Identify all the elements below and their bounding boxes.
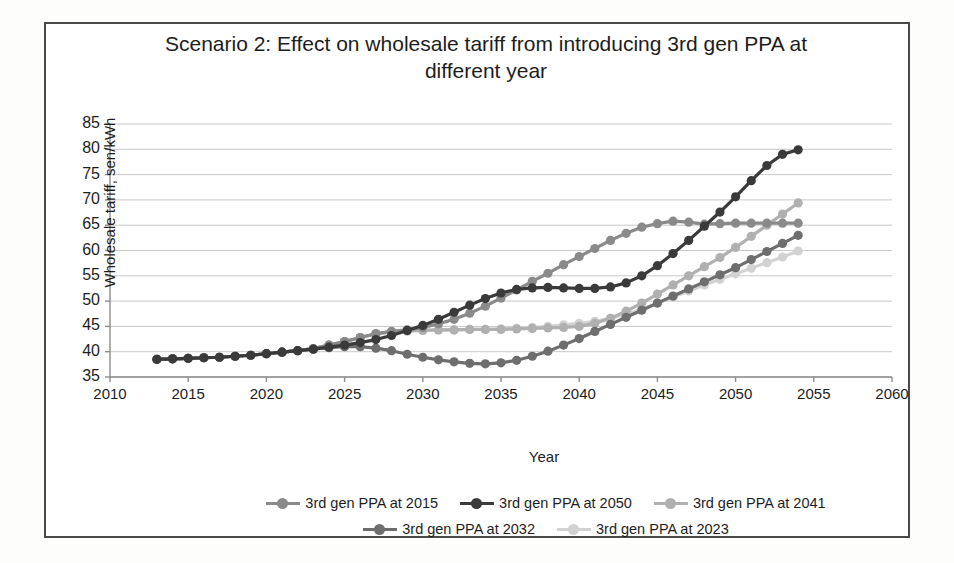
data-point (231, 352, 240, 361)
data-point (293, 346, 302, 355)
chart-frame: Scenario 2: Effect on wholesale tariff f… (44, 22, 910, 538)
data-point (215, 353, 224, 362)
data-point (747, 176, 756, 185)
data-point (324, 341, 333, 350)
x-tick-label: 2050 (706, 385, 766, 402)
x-tick-label: 2025 (315, 385, 375, 402)
data-point (637, 223, 646, 232)
data-point (559, 341, 568, 350)
data-point (543, 283, 552, 292)
data-point (731, 243, 740, 252)
series-line (157, 235, 798, 364)
data-point (590, 319, 599, 328)
x-tick-label: 2030 (393, 385, 453, 402)
data-point (559, 323, 568, 332)
data-point (403, 350, 412, 359)
data-point (434, 325, 443, 334)
data-point (449, 325, 458, 334)
data-point (496, 293, 505, 302)
chart-legend: 3rd gen PPA at 20153rd gen PPA at 20503r… (196, 490, 896, 542)
data-point (590, 327, 599, 336)
y-tick-label: 35 (66, 367, 100, 385)
data-point (778, 239, 787, 248)
data-point (668, 291, 677, 300)
data-point (762, 258, 771, 267)
data-point (575, 322, 584, 331)
x-tick-label: 2045 (627, 385, 687, 402)
data-point (434, 315, 443, 324)
data-point (465, 325, 474, 334)
data-point (715, 207, 724, 216)
legend-item[interactable]: 3rd gen PPA at 2015 (266, 495, 438, 511)
data-point (700, 277, 709, 286)
x-tick-label: 2055 (784, 385, 844, 402)
legend-item[interactable]: 3rd gen PPA at 2050 (460, 495, 632, 511)
data-point (762, 247, 771, 256)
y-tick-label: 40 (66, 342, 100, 360)
data-point (653, 299, 662, 308)
data-point (778, 150, 787, 159)
data-point (387, 346, 396, 355)
data-point (622, 278, 631, 287)
data-point (324, 341, 333, 350)
y-tick-label: 50 (66, 291, 100, 309)
y-tick-label: 45 (66, 316, 100, 334)
data-point (778, 209, 787, 218)
legend-marker-icon (460, 497, 494, 509)
legend-item[interactable]: 3rd gen PPA at 2041 (654, 495, 826, 511)
data-point (340, 337, 349, 346)
data-point (794, 198, 803, 207)
data-point (184, 354, 193, 363)
data-point (543, 269, 552, 278)
data-point (434, 319, 443, 328)
data-point (371, 329, 380, 338)
legend-item[interactable]: 3rd gen PPA at 2023 (557, 521, 729, 537)
data-point (246, 351, 255, 360)
data-point (262, 349, 271, 358)
legend-marker-icon (557, 523, 591, 535)
legend-item[interactable]: 3rd gen PPA at 2032 (363, 521, 535, 537)
data-point (590, 317, 599, 326)
data-point (418, 353, 427, 362)
data-point (481, 325, 490, 334)
data-point (653, 261, 662, 270)
data-point (434, 355, 443, 364)
data-point (184, 354, 193, 363)
series-0 (152, 217, 802, 364)
x-tick-label: 2010 (80, 385, 140, 402)
data-point (184, 354, 193, 363)
y-tick-label: 65 (66, 215, 100, 233)
data-point (184, 354, 193, 363)
data-point (747, 255, 756, 264)
data-point (512, 324, 521, 333)
data-point (762, 161, 771, 170)
data-point (293, 346, 302, 355)
data-point (606, 282, 615, 291)
data-point (512, 285, 521, 294)
series-line (157, 221, 798, 359)
data-point (324, 343, 333, 352)
data-point (512, 324, 521, 333)
data-point (231, 352, 240, 361)
data-point (528, 277, 537, 286)
data-point (449, 357, 458, 366)
data-point (231, 352, 240, 361)
data-point (794, 246, 803, 255)
data-point (559, 320, 568, 329)
data-point (356, 342, 365, 351)
data-point (684, 218, 693, 227)
data-point (731, 219, 740, 228)
data-point (277, 348, 286, 357)
data-point (778, 219, 787, 228)
data-point (340, 342, 349, 351)
data-point (152, 355, 161, 364)
data-point (403, 326, 412, 335)
y-axis-label: Wholesale tariff, sen/kWh (101, 98, 118, 308)
data-point (496, 325, 505, 334)
data-point (543, 323, 552, 332)
data-point (371, 329, 380, 338)
data-point (277, 348, 286, 357)
data-point (309, 345, 318, 354)
data-point (152, 355, 161, 364)
series-3 (152, 231, 802, 369)
